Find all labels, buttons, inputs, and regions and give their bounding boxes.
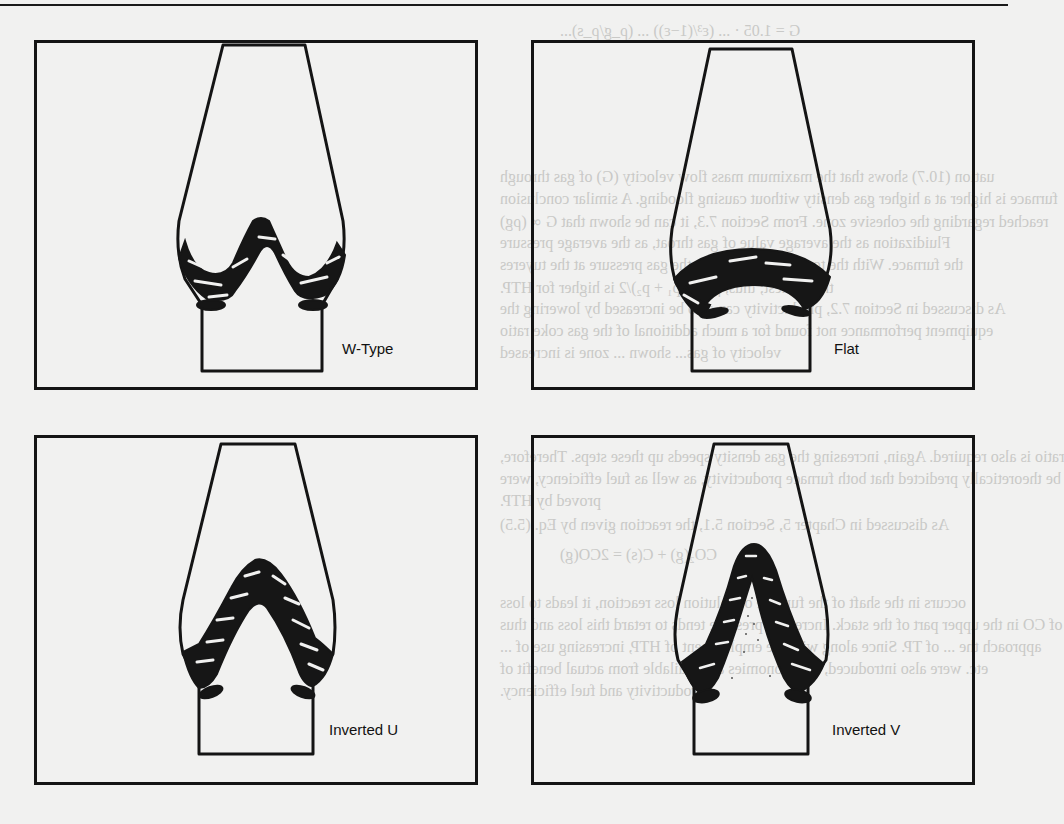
furnace-diagram-inverted-u	[37, 438, 481, 788]
page-top-rule	[0, 4, 1008, 6]
cohesive-zone-w	[179, 218, 345, 310]
panel-inverted-v: Inverted V	[531, 435, 975, 785]
panel-label: Inverted U	[329, 721, 398, 738]
cohesive-zone-inverted-v	[682, 544, 824, 705]
panel-flat: Flat	[531, 40, 975, 390]
panel-label: Flat	[834, 340, 859, 357]
furnace-outline	[671, 49, 831, 371]
furnace-outline	[178, 45, 344, 371]
panel-inverted-u: Inverted U	[34, 435, 478, 785]
panel-label: Inverted V	[832, 721, 900, 738]
panel-label: W-Type	[342, 340, 393, 357]
furnace-outline	[675, 444, 828, 754]
cohesive-zone-inverted-u	[183, 559, 333, 701]
furnace-diagram-w-type	[37, 43, 481, 393]
furnace-diagram-inverted-v	[534, 438, 978, 788]
panel-w-type: W-Type	[34, 40, 478, 390]
cohesive-zone-flat	[674, 249, 830, 320]
bleed-line: G = 1.05 · ... (ε³/(1−ε)) ... (ρ_g/ρ_s).…	[560, 22, 800, 40]
furnace-diagram-flat	[534, 43, 978, 393]
